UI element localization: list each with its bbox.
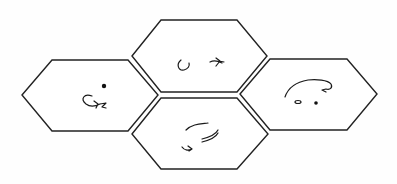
dot-icon <box>102 84 106 88</box>
hexagon-tiles-svg <box>0 0 397 184</box>
hexagon-diagram <box>0 0 397 184</box>
dot-icon <box>314 101 318 105</box>
hex-tile-left <box>22 60 158 131</box>
hex-tile-right <box>240 59 377 130</box>
hex-tile-top <box>132 20 267 92</box>
hex-tile-bottom <box>132 98 268 169</box>
